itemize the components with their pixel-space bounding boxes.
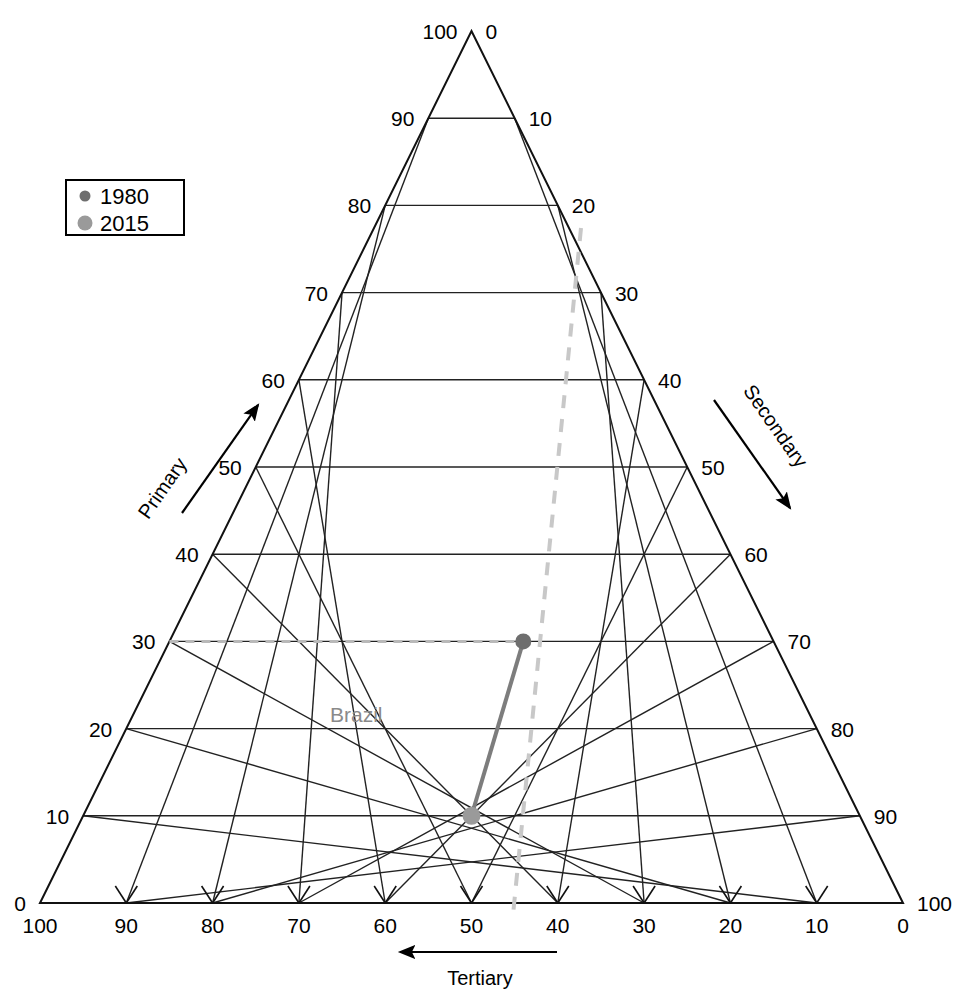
left-axis-tick-label: 90	[391, 107, 414, 130]
data-point-brazil-1980[interactable]	[515, 633, 531, 649]
tertiary-axis-title: Tertiary	[447, 967, 513, 989]
bottom-axis-tick-label: 30	[632, 914, 655, 937]
bottom-axis-tick-label: 60	[374, 914, 397, 937]
left-axis-tick-label: 0	[14, 892, 26, 915]
right-axis-tick-label: 30	[615, 282, 638, 305]
ternary-plot-root: 1009080706050403020100010203040506070809…	[0, 0, 973, 1005]
bottom-axis-tick-label: 50	[460, 914, 483, 937]
diagonal-reference-dashed-line	[513, 228, 581, 915]
bottom-axis-tick-label: 70	[287, 914, 310, 937]
right-axis-tick-label: 70	[788, 630, 811, 653]
bottom-axis-tick-label: 80	[201, 914, 224, 937]
left-axis-tick-label: 70	[305, 282, 328, 305]
reference-guides	[169, 228, 581, 915]
right-axis-tick-label: 80	[831, 718, 854, 741]
legend: 1980 2015	[66, 180, 184, 236]
left-axis-tick-label: 30	[132, 630, 155, 653]
secondary-axis-title: Secondary	[739, 381, 812, 472]
secondary-axis-title-group: Secondary	[714, 381, 812, 508]
right-axis-tick-label: 10	[529, 107, 552, 130]
legend-label-1980: 1980	[100, 184, 149, 209]
grid-lines	[83, 118, 860, 903]
left-axis-tick-label: 20	[89, 718, 112, 741]
primary-axis-arrow-line	[182, 405, 258, 513]
bottom-axis-tick-label: 10	[805, 914, 828, 937]
left-axis-tick-label: 40	[175, 543, 198, 566]
legend-marker-2015	[78, 216, 93, 231]
right-axis-tick-label: 40	[658, 369, 681, 392]
right-axis-tick-label: 100	[917, 892, 952, 915]
bottom-axis-tick-label: 0	[897, 914, 909, 937]
right-axis-tick-label: 50	[701, 456, 724, 479]
left-axis-tick-label: 80	[348, 194, 371, 217]
ternary-diagram: 1009080706050403020100010203040506070809…	[0, 0, 973, 1005]
right-axis-tick-label: 60	[744, 543, 767, 566]
left-axis-tick-label: 100	[422, 20, 457, 43]
bottom-axis-tick-label: 40	[546, 914, 569, 937]
tertiary-axis-title-group: Tertiary	[400, 952, 557, 989]
left-axis-tick-label: 10	[46, 805, 69, 828]
brazil-series-label: Brazil	[330, 703, 383, 726]
bottom-axis-tick-label: 100	[22, 914, 57, 937]
right-axis-tick-label: 20	[572, 194, 595, 217]
left-axis-tick-label: 60	[262, 369, 285, 392]
left-axis-tick-label: 50	[218, 456, 241, 479]
right-axis-tick-label: 90	[874, 805, 897, 828]
bottom-axis-tick-label: 90	[115, 914, 138, 937]
legend-label-2015: 2015	[100, 211, 149, 236]
data-point-brazil-2015[interactable]	[463, 807, 481, 825]
bottom-axis-tick-label: 20	[719, 914, 742, 937]
right-axis-tick-label: 0	[486, 20, 498, 43]
legend-marker-1980	[80, 191, 91, 202]
